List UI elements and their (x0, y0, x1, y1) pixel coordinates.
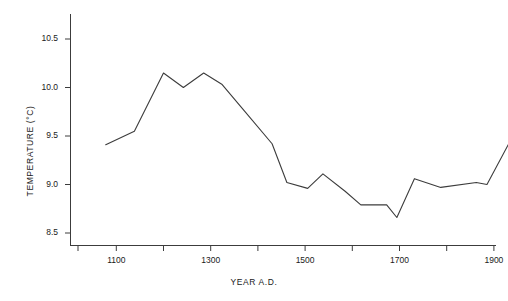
x-tick-marks (78, 246, 494, 252)
y-tick-label-9.5: 9.5 (18, 130, 58, 140)
temperature-line-chart: 10.5 10.0 9.5 9.0 8.5 1100 1300 1500 170… (0, 0, 508, 301)
y-tick-label-10.5: 10.5 (18, 33, 58, 43)
x-axis-title: YEAR A.D. (0, 277, 508, 287)
x-tick-label-1900: 1900 (469, 255, 508, 265)
y-tick-label-10.0: 10.0 (18, 82, 58, 92)
x-tick-label-1100: 1100 (91, 255, 141, 265)
y-tick-label-9.0: 9.0 (18, 179, 58, 189)
temperature-series-line (106, 73, 508, 218)
x-tick-label-1700: 1700 (375, 255, 425, 265)
y-tick-label-8.5: 8.5 (18, 227, 58, 237)
y-tick-marks (65, 39, 71, 233)
chart-canvas (0, 0, 508, 301)
x-tick-label-1500: 1500 (280, 255, 330, 265)
x-tick-label-1300: 1300 (186, 255, 236, 265)
y-axis-title: TEMPERATURE (°C) (25, 71, 35, 231)
